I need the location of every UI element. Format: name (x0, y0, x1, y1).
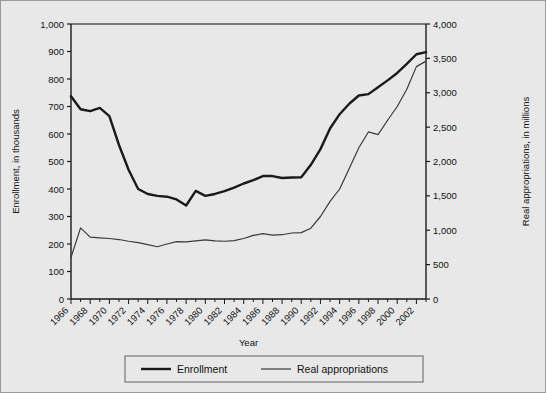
y-tick-label-left: 600 (48, 129, 64, 140)
y-axis-title-right: Real appropriations, in millions (520, 97, 531, 227)
y-tick-label-left: 300 (48, 211, 64, 222)
y-tick-label-left: 0 (59, 294, 64, 305)
y-tick-label-left: 200 (48, 239, 64, 250)
x-tick-label: 1980 (182, 305, 205, 328)
y-tick-label-right: 500 (433, 259, 449, 270)
y-tick-label-left: 100 (48, 266, 64, 277)
x-tick-label: 1996 (336, 305, 359, 328)
y-tick-label-right: 2,500 (433, 122, 457, 133)
y-tick-label-left: 900 (48, 46, 64, 57)
x-tick-label: 1982 (201, 305, 224, 328)
x-tick-label: 1998 (355, 305, 378, 328)
x-tick-label: 1978 (163, 305, 186, 328)
x-tick-label: 1992 (297, 305, 320, 328)
y-axis-title-left: Enrollment, in thousands (10, 109, 21, 214)
x-tick-label: 1974 (124, 305, 147, 328)
x-tick-label: 2000 (374, 305, 397, 328)
x-tick-label: 1968 (67, 305, 90, 328)
y-tick-label-right: 0 (433, 294, 438, 305)
x-tick-label: 1988 (259, 305, 282, 328)
y-tick-label-right: 3,000 (433, 87, 457, 98)
x-tick-label: 1990 (278, 305, 301, 328)
y-tick-label-left: 1,000 (40, 19, 64, 30)
y-tick-label-right: 2,000 (433, 156, 457, 167)
x-tick-label: 1966 (48, 305, 71, 328)
y-tick-label-left: 400 (48, 184, 64, 195)
y-tick-label-right: 3,500 (433, 53, 457, 64)
x-tick-label: 2002 (393, 305, 416, 328)
x-axis-title: Year (239, 337, 258, 348)
y-tick-label-right: 4,000 (433, 19, 457, 30)
x-tick-label: 1972 (105, 305, 128, 328)
y-tick-label-left: 700 (48, 101, 64, 112)
y-tick-label-left: 500 (48, 156, 64, 167)
legend-label-real-appropriations: Real appropriations (297, 363, 388, 375)
chart-canvas: 01002003004005006007008009001,00005001,0… (1, 1, 546, 393)
x-tick-label: 1986 (240, 305, 263, 328)
chart-figure: 01002003004005006007008009001,00005001,0… (0, 0, 546, 393)
x-tick-label: 1994 (316, 305, 339, 328)
x-tick-label: 1970 (86, 305, 109, 328)
legend-label-enrollment: Enrollment (177, 363, 227, 375)
x-tick-label: 1984 (220, 305, 243, 328)
y-tick-label-left: 800 (48, 74, 64, 85)
x-tick-label: 1976 (144, 305, 167, 328)
y-tick-label-right: 1,500 (433, 190, 457, 201)
y-tick-label-right: 1,000 (433, 225, 457, 236)
